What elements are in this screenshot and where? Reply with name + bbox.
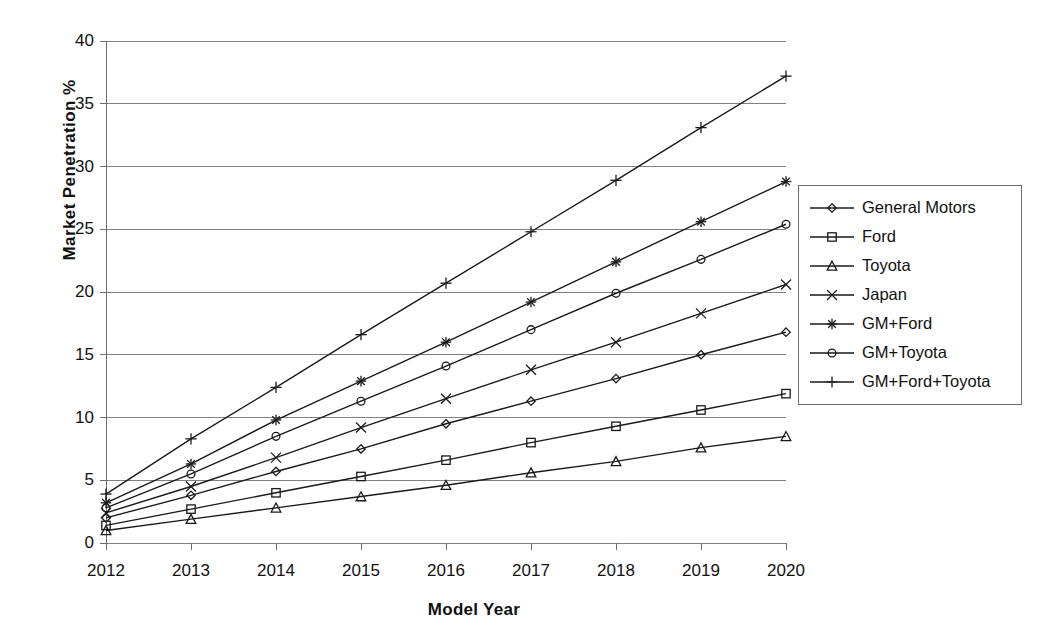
data-point [526, 297, 537, 308]
data-point [271, 453, 281, 463]
series-ford [102, 389, 790, 529]
plus-marker-icon [808, 373, 856, 391]
data-point [356, 376, 367, 387]
data-point [695, 122, 706, 133]
data-point [356, 423, 366, 433]
legend-item-gm-ford-toyota[interactable]: GM+Ford+Toyota [799, 367, 1021, 396]
legend-item-label: GM+Ford [856, 315, 932, 332]
data-point [525, 226, 536, 237]
legend-item-label: General Motors [856, 199, 976, 216]
legend-item-gm-toyota[interactable]: GM+Toyota [799, 338, 1021, 367]
legend-item-japan[interactable]: Japan [799, 280, 1021, 309]
data-point [441, 394, 451, 404]
gridlines [106, 41, 786, 480]
data-point [696, 308, 706, 318]
data-point [610, 175, 621, 186]
data-point [270, 382, 281, 393]
axis-lines [100, 41, 786, 550]
data-point [271, 415, 282, 426]
legend-item-label: GM+Toyota [856, 344, 947, 361]
legend-item-label: Japan [856, 286, 907, 303]
data-point [781, 279, 791, 289]
legend-item-gm-ford[interactable]: GM+Ford [799, 309, 1021, 338]
series-gm-toyota [102, 220, 790, 511]
data-point [781, 176, 792, 187]
triangle-marker-icon [808, 257, 856, 275]
data-point [780, 71, 791, 82]
series-general-motors [102, 328, 790, 522]
legend-item-ford[interactable]: Ford [799, 222, 1021, 251]
data-point [611, 337, 621, 347]
line-chart: Market Penetration % Model Year 05101520… [0, 0, 1052, 643]
data-point [611, 257, 622, 268]
data-point [185, 433, 196, 444]
data-point [186, 459, 197, 470]
data-point [100, 488, 111, 499]
series-layer [100, 71, 791, 535]
diamond-marker-icon [808, 199, 856, 217]
data-point [440, 278, 451, 289]
circle-marker-icon [808, 344, 856, 362]
series-toyota [101, 432, 791, 535]
data-point [441, 337, 452, 348]
legend-item-label: Ford [856, 228, 896, 245]
legend-item-toyota[interactable]: Toyota [799, 251, 1021, 280]
legend-item-general-motors[interactable]: General Motors [799, 193, 1021, 222]
data-point [696, 216, 707, 227]
data-point [526, 365, 536, 375]
x-marker-icon [808, 286, 856, 304]
series-gm-ford [101, 176, 792, 508]
series-gm-ford-toyota [100, 71, 791, 500]
asterisk-marker-icon [808, 315, 856, 333]
legend-item-label: Toyota [856, 257, 911, 274]
data-point [782, 328, 790, 336]
data-point [186, 482, 196, 492]
square-marker-icon [808, 228, 856, 246]
data-point [781, 432, 791, 441]
series-japan [101, 279, 791, 517]
data-point [355, 329, 366, 340]
legend-item-label: GM+Ford+Toyota [856, 373, 990, 390]
legend: General MotorsFordToyotaJapanGM+FordGM+T… [798, 185, 1022, 405]
